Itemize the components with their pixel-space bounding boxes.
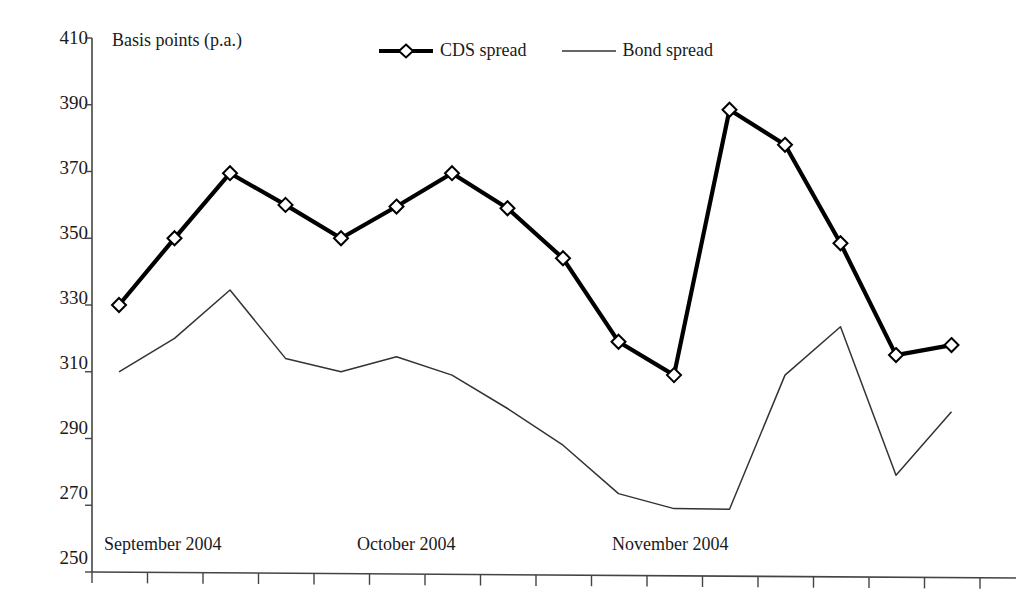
chart-plot-area <box>0 0 1035 612</box>
x-axis-line <box>92 572 1016 578</box>
y-axis-ticks <box>85 38 92 572</box>
series-line-cds-spread <box>119 110 952 375</box>
axis-lines <box>92 38 1016 578</box>
data-point-marker <box>945 338 959 352</box>
series-line-bond-spread <box>119 290 952 509</box>
series-markers-cds-spread <box>112 103 959 382</box>
chart-figure: Basis points (p.a.) CDS spread Bond spre… <box>0 0 1035 612</box>
data-point-marker <box>889 348 903 362</box>
